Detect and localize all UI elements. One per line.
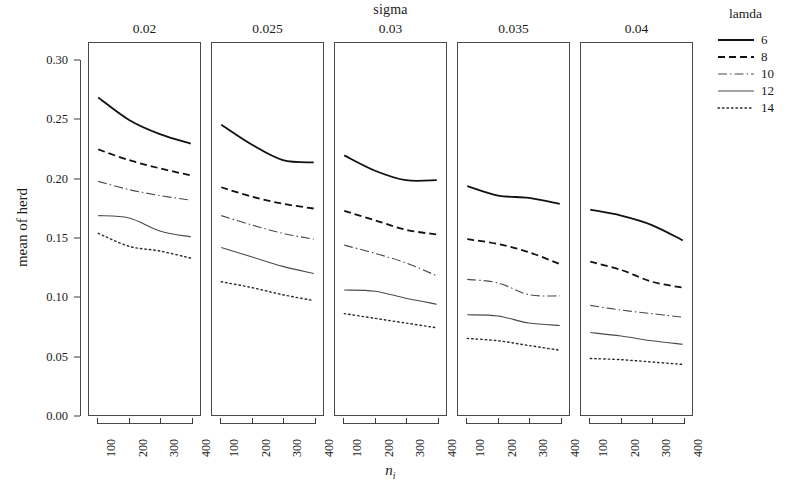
chart-panel-sigma-0.035 — [457, 42, 570, 416]
series-line-lamda-8 — [467, 239, 560, 264]
legend-rows: 68101214 — [717, 31, 774, 116]
x-axis-tick-mark — [406, 418, 407, 424]
x-axis-tick-label: 200 — [627, 439, 642, 457]
x-axis-tick-label: 300 — [290, 439, 305, 457]
x-axis-tick-mark — [160, 418, 161, 424]
x-axis-tick-mark — [192, 418, 193, 424]
y-axis-tick-mark — [74, 59, 80, 60]
x-axis-tick-mark — [589, 418, 590, 424]
x-axis-tick-mark — [283, 418, 284, 424]
x-axis-tick-label: 400 — [444, 439, 459, 457]
facet-variable-title: sigma — [88, 2, 693, 18]
y-axis-tick-mark — [74, 356, 80, 357]
x-axis-tick-mark — [466, 418, 467, 424]
legend-title: lamda — [717, 6, 774, 22]
series-line-lamda-10 — [98, 181, 191, 200]
x-axis-tick-mark — [652, 418, 653, 424]
chart-canvas: sigma mean of herd ni 0.000.050.100.150.… — [0, 0, 792, 493]
series-line-lamda-8 — [98, 149, 191, 175]
series-line-lamda-12 — [98, 216, 191, 237]
series-line-lamda-12 — [467, 315, 560, 326]
series-line-lamda-8 — [590, 262, 683, 288]
chart-panel-sigma-0.03 — [334, 42, 447, 416]
series-line-lamda-6 — [467, 186, 560, 204]
series-line-lamda-14 — [344, 314, 437, 328]
x-axis-tick-label: 200 — [135, 439, 150, 457]
series-line-lamda-8 — [344, 211, 437, 235]
x-axis-tick-label: 300 — [413, 439, 428, 457]
series-line-lamda-6 — [590, 210, 683, 241]
x-axis-tick-mark — [498, 418, 499, 424]
x-axis-tick-label: 100 — [350, 439, 365, 457]
x-axis-tick-label: 400 — [198, 439, 213, 457]
legend-item-label: 6 — [761, 33, 768, 46]
x-axis-tick-mark — [529, 418, 530, 424]
panel-strip-label: 0.04 — [580, 21, 693, 37]
x-axis-tick-mark — [220, 418, 221, 424]
legend-item-lamda-8[interactable]: 8 — [717, 48, 774, 65]
series-line-lamda-10 — [467, 279, 560, 296]
y-axis-tick-label: 0.05 — [0, 349, 68, 364]
legend-item-lamda-14[interactable]: 14 — [717, 99, 774, 116]
legend-line-swatch-icon — [717, 35, 755, 45]
legend-line-swatch-icon — [717, 86, 755, 96]
legend-item-label: 14 — [761, 101, 774, 114]
x-axis-tick-label: 100 — [227, 439, 242, 457]
y-axis-tick-label: 0.00 — [0, 409, 68, 424]
panel-plot-area — [458, 43, 569, 415]
legend-item-lamda-6[interactable]: 6 — [717, 31, 774, 48]
x-axis-tick-mark — [561, 418, 562, 424]
series-line-lamda-14 — [467, 338, 560, 350]
panel-strip-label: 0.03 — [334, 21, 447, 37]
legend-line-swatch-icon — [717, 69, 755, 79]
x-axis-tick-label: 100 — [104, 439, 119, 457]
x-axis-tick-mark — [375, 418, 376, 424]
y-axis-tick-label: 0.15 — [0, 230, 68, 245]
y-axis-tick-label: 0.20 — [0, 171, 68, 186]
legend-item-label: 12 — [761, 84, 774, 97]
panel-plot-area — [89, 43, 200, 415]
panel-strip-label: 0.02 — [88, 21, 201, 37]
series-line-lamda-8 — [221, 187, 314, 208]
x-axis-tick-mark — [252, 418, 253, 424]
x-axis-tick-label: 300 — [659, 439, 674, 457]
legend-line-swatch-icon — [717, 52, 755, 62]
x-axis-line — [589, 423, 683, 424]
x-axis-tick-label: 400 — [321, 439, 336, 457]
series-line-lamda-6 — [221, 125, 314, 163]
panel-strip-label: 0.035 — [457, 21, 570, 37]
x-axis-tick-label: 200 — [504, 439, 519, 457]
series-line-lamda-12 — [590, 333, 683, 345]
x-axis-label: ni — [88, 462, 693, 481]
y-axis-tick-mark — [74, 178, 80, 179]
series-line-lamda-14 — [98, 233, 191, 258]
chart-panel-sigma-0.02 — [88, 42, 201, 416]
y-axis-tick-label: 0.30 — [0, 52, 68, 67]
legend: lamda 68101214 — [717, 6, 774, 116]
panel-plot-area — [212, 43, 323, 415]
y-axis-tick-mark — [74, 119, 80, 120]
series-line-lamda-6 — [98, 98, 191, 144]
chart-panel-sigma-0.04 — [580, 42, 693, 416]
y-axis-tick-label: 0.10 — [0, 290, 68, 305]
legend-item-lamda-10[interactable]: 10 — [717, 65, 774, 82]
legend-item-label: 8 — [761, 50, 768, 63]
x-axis-label-sub: i — [393, 470, 396, 481]
x-axis-line — [343, 423, 437, 424]
series-line-lamda-10 — [221, 216, 314, 240]
x-axis-tick-mark — [97, 418, 98, 424]
y-axis-tick-label: 0.25 — [0, 112, 68, 127]
x-axis-tick-mark — [315, 418, 316, 424]
panel-plot-area — [581, 43, 692, 415]
x-axis-line — [466, 423, 560, 424]
series-line-lamda-10 — [344, 245, 437, 276]
y-axis-tick-mark — [74, 237, 80, 238]
x-axis-line — [220, 423, 314, 424]
panel-plot-area — [335, 43, 446, 415]
x-axis-tick-label: 400 — [690, 439, 705, 457]
y-axis-tick-mark — [74, 297, 80, 298]
legend-item-lamda-12[interactable]: 12 — [717, 82, 774, 99]
legend-line-swatch-icon — [717, 103, 755, 113]
x-axis-tick-label: 200 — [258, 439, 273, 457]
x-axis-tick-label: 400 — [567, 439, 582, 457]
